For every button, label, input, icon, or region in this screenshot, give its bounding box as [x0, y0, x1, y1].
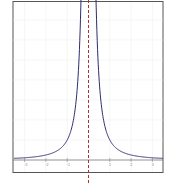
svg-text:-1: -1 [66, 162, 70, 167]
svg-text:-2: -2 [45, 162, 49, 167]
svg-text:-3: -3 [24, 162, 28, 167]
chart: -3-2-1123 [0, 0, 173, 185]
svg-text:1: 1 [109, 162, 112, 167]
svg-text:2: 2 [130, 162, 133, 167]
svg-text:3: 3 [151, 162, 154, 167]
